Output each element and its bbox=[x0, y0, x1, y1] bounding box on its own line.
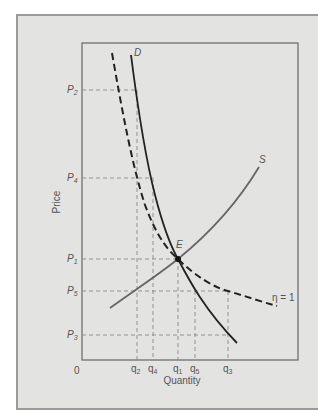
price-guide-lines bbox=[82, 90, 228, 335]
equilibrium-label: E bbox=[176, 239, 183, 250]
svg-text:q4: q4 bbox=[148, 363, 158, 375]
quantity-tick-labels: q2 q4 q1 q5 q3 bbox=[131, 363, 233, 375]
svg-text:P4: P4 bbox=[67, 172, 78, 184]
demand-supply-diagram: D S E η = 1 P2 P4 P1 P5 P3 q2 q4 q1 q5 q… bbox=[0, 0, 318, 418]
supply-label: S bbox=[259, 154, 266, 165]
unit-elastic-label: η = 1 bbox=[272, 292, 295, 303]
svg-text:P5: P5 bbox=[67, 285, 78, 297]
svg-text:q5: q5 bbox=[190, 363, 200, 375]
svg-text:P2: P2 bbox=[67, 84, 78, 96]
svg-text:q3: q3 bbox=[223, 363, 233, 375]
svg-text:P3: P3 bbox=[67, 329, 78, 341]
origin-label: 0 bbox=[74, 365, 80, 376]
demand-curve bbox=[131, 55, 237, 343]
svg-text:q1: q1 bbox=[173, 363, 183, 375]
svg-text:q2: q2 bbox=[131, 363, 141, 375]
price-tick-labels: P2 P4 P1 P5 P3 bbox=[67, 84, 78, 341]
x-axis-title: Quantity bbox=[163, 375, 200, 386]
y-axis-title: Price bbox=[51, 190, 62, 213]
plot-frame bbox=[82, 43, 298, 360]
demand-label: D bbox=[134, 47, 141, 58]
supply-curve bbox=[110, 167, 259, 308]
equilibrium-point bbox=[175, 256, 181, 262]
svg-text:P1: P1 bbox=[67, 253, 78, 265]
